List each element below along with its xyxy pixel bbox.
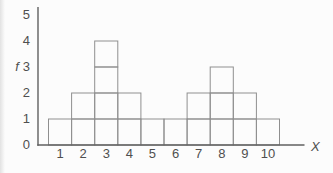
x-axis-title: X [310, 139, 321, 154]
y-tick-label-1: 1 [23, 111, 30, 126]
x-tick-label-10: 10 [261, 146, 275, 161]
unit-block-x1-level1 [49, 119, 72, 145]
x-tick-label-8: 8 [218, 146, 225, 161]
unit-block-x2-level1 [72, 119, 95, 145]
unit-block-x4-level2 [118, 93, 141, 119]
x-tick-label-3: 3 [103, 146, 110, 161]
unit-block-x7-level1 [187, 119, 210, 145]
x-tick-label-9: 9 [241, 146, 248, 161]
unit-block-x2-level2 [72, 93, 95, 119]
x-tick-label-1: 1 [56, 146, 63, 161]
histogram-chart: 012345f12345678910X [0, 0, 333, 173]
unit-block-x3-level2 [95, 93, 118, 119]
x-tick-label-2: 2 [80, 146, 87, 161]
y-tick-label-3: 3 [23, 59, 30, 74]
x-tick-label-5: 5 [149, 146, 156, 161]
unit-block-x9-level2 [233, 93, 256, 119]
unit-block-x3-level1 [95, 119, 118, 145]
unit-block-x3-level4 [95, 41, 118, 67]
unit-block-x4-level1 [118, 119, 141, 145]
x-tick-label-4: 4 [126, 146, 133, 161]
x-tick-label-6: 6 [172, 146, 179, 161]
y-tick-label-2: 2 [23, 85, 30, 100]
frequency-histogram-figure: 012345f12345678910X [0, 0, 333, 173]
unit-block-x8-level1 [210, 119, 233, 145]
unit-block-x9-level1 [233, 119, 256, 145]
unit-block-x5-level1 [141, 119, 164, 145]
y-axis-title: f [15, 59, 20, 74]
unit-block-x6-level1 [164, 119, 187, 145]
unit-block-x8-level3 [210, 67, 233, 93]
x-tick-label-7: 7 [195, 146, 202, 161]
unit-block-x8-level2 [210, 93, 233, 119]
y-tick-label-4: 4 [23, 33, 30, 48]
unit-block-x7-level2 [187, 93, 210, 119]
unit-block-x10-level1 [256, 119, 279, 145]
y-tick-label-5: 5 [23, 7, 30, 22]
y-tick-label-0: 0 [23, 137, 30, 152]
unit-block-x3-level3 [95, 67, 118, 93]
